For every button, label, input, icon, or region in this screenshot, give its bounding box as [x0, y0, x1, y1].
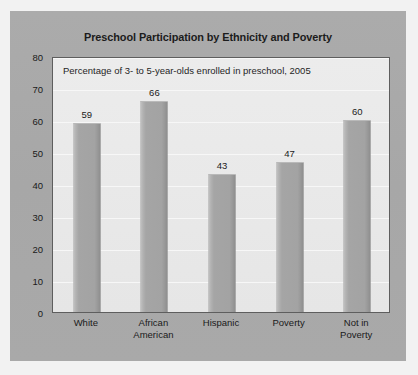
x-axis-label-line: African — [120, 317, 188, 329]
x-axis-category-label: White — [52, 317, 120, 329]
bar — [208, 174, 235, 312]
chart-panel: Preschool Participation by Ethnicity and… — [10, 11, 406, 361]
bar-series: 5966434760 — [53, 58, 389, 312]
y-axis-tick-label: 40 — [32, 180, 43, 191]
x-axis-label-line: Poverty — [322, 329, 390, 341]
x-axis-label-line: Hispanic — [187, 317, 255, 329]
bar-group: 60 — [323, 58, 391, 312]
x-axis-label-line: Not in — [322, 317, 390, 329]
chart-screenshot: Preschool Participation by Ethnicity and… — [0, 0, 418, 375]
bar-group: 43 — [188, 58, 256, 312]
bar-value-label: 59 — [82, 109, 93, 120]
bar-group: 59 — [53, 58, 121, 312]
bar — [73, 123, 100, 312]
y-axis-tick-label: 50 — [32, 148, 43, 159]
bar-value-label: 47 — [284, 148, 295, 159]
x-axis-label-line: Poverty — [255, 317, 323, 329]
bar-group: 66 — [121, 58, 189, 312]
y-axis: 80706050403020100 — [10, 57, 48, 313]
y-axis-tick-label: 60 — [32, 116, 43, 127]
y-axis-tick-label: 20 — [32, 244, 43, 255]
bar-value-label: 66 — [149, 87, 160, 98]
bar-value-label: 60 — [352, 106, 363, 117]
plot-area: Percentage of 3- to 5-year-olds enrolled… — [52, 57, 390, 313]
bar — [344, 120, 371, 312]
x-axis-labels: WhiteAfricanAmericanHispanicPovertyNot i… — [52, 317, 390, 363]
x-axis-category-label: Hispanic — [187, 317, 255, 329]
chart-title: Preschool Participation by Ethnicity and… — [20, 31, 396, 43]
y-axis-tick-label: 30 — [32, 212, 43, 223]
bar — [276, 162, 303, 312]
x-axis-category-label: AfricanAmerican — [120, 317, 188, 340]
x-axis-category-label: Not inPoverty — [322, 317, 390, 340]
x-axis-category-label: Poverty — [255, 317, 323, 329]
y-axis-tick-label: 70 — [32, 84, 43, 95]
bar-value-label: 43 — [217, 160, 228, 171]
y-axis-tick-label: 10 — [32, 276, 43, 287]
y-axis-tick-label: 80 — [32, 52, 43, 63]
bar-group: 47 — [256, 58, 324, 312]
y-axis-tick-label: 0 — [38, 308, 43, 319]
x-axis-label-line: American — [120, 329, 188, 341]
x-axis-label-line: White — [52, 317, 120, 329]
bar — [141, 101, 168, 312]
